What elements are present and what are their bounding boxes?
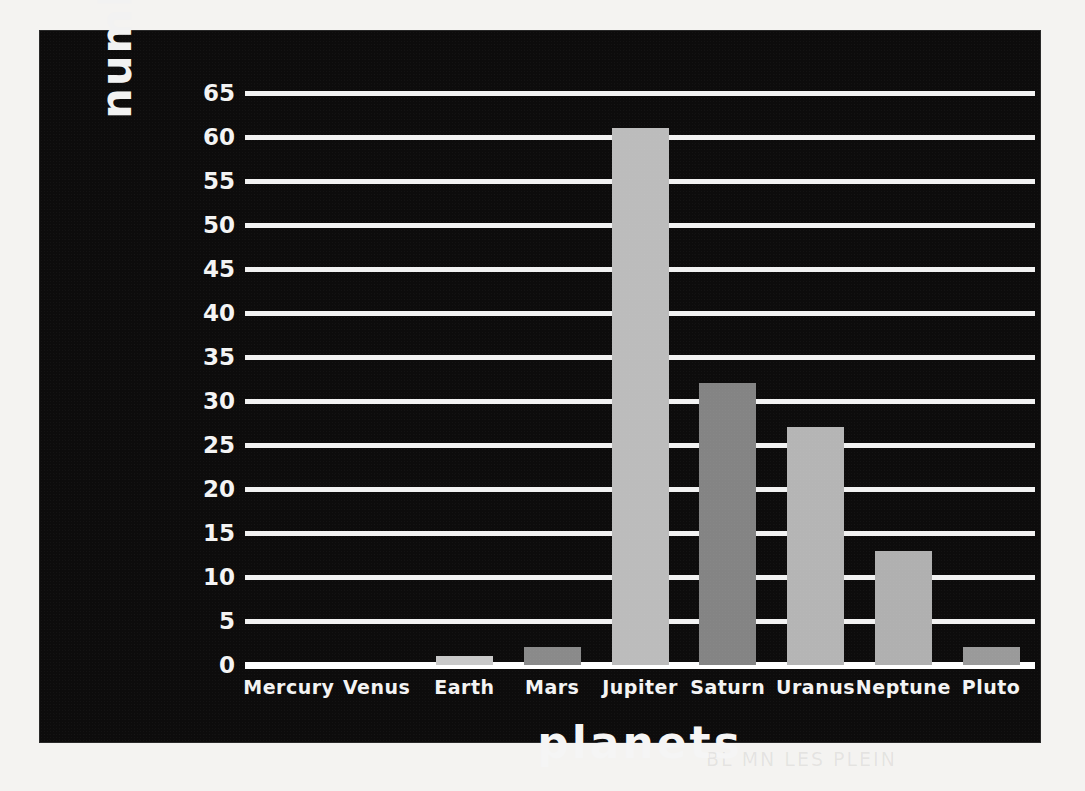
bar-pluto	[963, 647, 1020, 665]
bar-mars	[524, 647, 581, 665]
y-axis-tick-label: 0	[160, 654, 235, 677]
x-axis-tick-label: Pluto	[962, 676, 1021, 698]
x-axis-tick-label: Neptune	[856, 676, 951, 698]
y-axis-tick-labels: 05101520253035404550556065	[160, 93, 235, 665]
bar-chart-panel: number of moons 051015202530354045505560…	[40, 31, 1040, 742]
y-axis-tick-label: 10	[160, 566, 235, 589]
x-axis-tick-label: Mars	[525, 676, 579, 698]
y-axis-tick-label: 5	[160, 610, 235, 633]
y-axis-tick-label: 35	[160, 346, 235, 369]
x-axis-tick-label: Venus	[343, 676, 410, 698]
x-axis-title: planets	[245, 717, 1035, 768]
y-axis-tick-label: 40	[160, 302, 235, 325]
x-axis-tick-label: Mercury	[243, 676, 334, 698]
bar-uranus	[787, 427, 844, 665]
y-axis-tick-label: 15	[160, 522, 235, 545]
x-axis-tick-labels: MercuryVenusEarthMarsJupiterSaturnUranus…	[245, 676, 1035, 706]
x-axis-tick-label: Uranus	[776, 676, 855, 698]
y-axis-tick-label: 30	[160, 390, 235, 413]
bar-jupiter	[612, 128, 669, 665]
y-axis-tick-label: 45	[160, 258, 235, 281]
y-axis-tick-label: 60	[160, 126, 235, 149]
gridline	[245, 91, 1035, 96]
plot-area	[245, 93, 1035, 665]
x-axis-tick-label: Saturn	[690, 676, 765, 698]
y-axis-tick-label: 50	[160, 214, 235, 237]
bar-saturn	[699, 383, 756, 665]
y-axis-tick-label: 25	[160, 434, 235, 457]
bar-earth	[436, 656, 493, 665]
x-axis-tick-label: Jupiter	[602, 676, 678, 698]
bar-neptune	[875, 551, 932, 665]
y-axis-tick-label: 20	[160, 478, 235, 501]
y-axis-title: number of moons	[86, 0, 146, 171]
x-axis-tick-label: Earth	[434, 676, 494, 698]
y-axis-tick-label: 65	[160, 82, 235, 105]
page-background: BL MN LES PLEIN number of moons 05101520…	[0, 0, 1085, 791]
y-axis-tick-label: 55	[160, 170, 235, 193]
